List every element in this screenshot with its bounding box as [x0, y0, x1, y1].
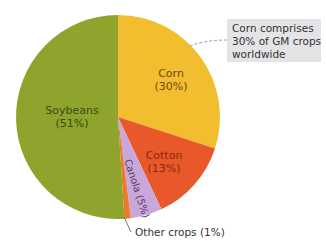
corn-label-name: Corn [147, 67, 195, 80]
corn-label: Corn (30%) [147, 67, 195, 93]
soybeans-label-pct: (51%) [42, 117, 102, 130]
cotton-label-pct: (13%) [140, 162, 188, 175]
callout-leader-line [190, 40, 227, 46]
callout-line-2: 30% of GM crops [232, 35, 321, 48]
callout-line-3: worldwide [232, 48, 321, 61]
corn-label-pct: (30%) [147, 80, 195, 93]
soybeans-label: Soybeans (51%) [42, 104, 102, 130]
soybeans-label-name: Soybeans [42, 104, 102, 117]
cotton-label: Cotton (13%) [140, 149, 188, 175]
callout-box: Corn comprises 30% of GM crops worldwide [227, 19, 321, 62]
other-crops-leader-line [124, 217, 131, 232]
cotton-label-name: Cotton [140, 149, 188, 162]
other-crops-label: Other crops (1%) [135, 226, 225, 239]
callout-line-1: Corn comprises [232, 22, 321, 35]
